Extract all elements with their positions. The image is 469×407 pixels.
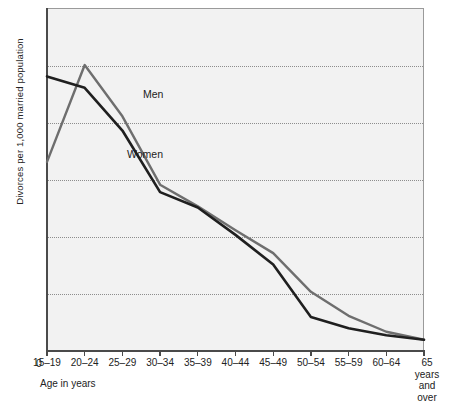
chart-root: Divorces per 1,000 married population 10… [0,0,469,407]
series-lines [0,0,469,407]
series-line-women [47,76,424,339]
series-line-men [47,65,424,340]
x-axis-title: Age in years [40,378,96,389]
series-label-men: Men [143,88,163,100]
series-label-women: Women [127,148,163,160]
